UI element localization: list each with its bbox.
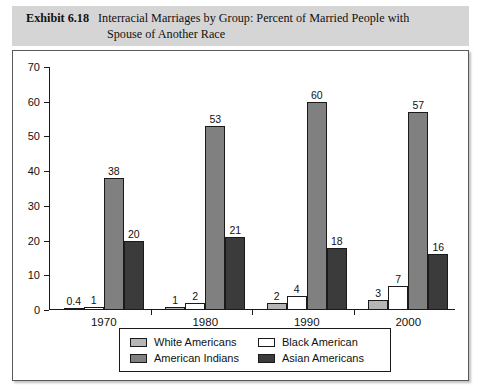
bar: 16: [428, 254, 448, 310]
x-tick-mark: [252, 310, 253, 315]
chart-legend: White AmericansBlack AmericanAmerican In…: [119, 328, 391, 372]
bar: 20: [124, 241, 144, 310]
legend-item: American Indians: [130, 352, 252, 364]
y-tick-label: 20: [28, 235, 40, 247]
bar-value-label: 18: [331, 235, 343, 247]
bar-value-label: 20: [128, 228, 140, 240]
bar: 1: [84, 307, 104, 310]
bar-value-label: 60: [311, 89, 323, 101]
bar: 4: [287, 296, 307, 310]
y-tick-mark: [44, 241, 49, 242]
bar-value-label: 1: [172, 294, 178, 306]
bar-group: 3757162000: [368, 67, 448, 310]
y-tick-label: 70: [28, 61, 40, 73]
exhibit-title-line-2: Spouse of Another Race: [26, 27, 469, 43]
bar: 7: [388, 286, 408, 310]
bar-value-label: 4: [294, 283, 300, 295]
bar-value-label: 0.4: [66, 295, 81, 307]
legend-label: Asian Americans: [282, 352, 364, 364]
legend-swatch: [258, 354, 275, 363]
bar: 2: [185, 303, 205, 310]
bar: 18: [327, 248, 347, 310]
bar-value-label: 53: [209, 113, 221, 125]
bar: 60: [307, 102, 327, 310]
x-tick-mark: [151, 310, 152, 315]
legend-item: White Americans: [130, 336, 252, 348]
y-tick-label: 30: [28, 200, 40, 212]
plot-area: 010203040506070 0.4138201970125321198024…: [49, 67, 455, 310]
y-tick-mark: [44, 310, 49, 311]
x-tick-label: 1970: [91, 316, 117, 328]
x-tick-label: 1980: [192, 316, 218, 328]
y-tick-mark: [44, 102, 49, 103]
bar-value-label: 2: [192, 290, 198, 302]
chart-frame: 010203040506070 0.4138201970125321198024…: [12, 50, 469, 381]
bar: 0.4: [64, 308, 84, 310]
y-tick-label: 40: [28, 165, 40, 177]
x-tick-mark: [354, 310, 355, 315]
y-tick-label: 10: [28, 269, 40, 281]
bar-value-label: 16: [432, 241, 444, 253]
bar-value-label: 38: [108, 165, 120, 177]
bar: 21: [225, 237, 245, 310]
bar-value-label: 7: [395, 273, 401, 285]
y-tick-label: 50: [28, 130, 40, 142]
y-tick-mark: [44, 206, 49, 207]
exhibit-title-text-1: Interracial Marriages by Group: Percent …: [98, 11, 409, 25]
y-tick-mark: [44, 67, 49, 68]
legend-label: White Americans: [154, 336, 237, 348]
exhibit-header: Exhibit 6.18Interracial Marriages by Gro…: [12, 6, 469, 46]
y-tick-mark: [44, 171, 49, 172]
bar-value-label: 3: [375, 287, 381, 299]
x-tick-label: 1990: [294, 316, 320, 328]
exhibit-figure: Exhibit 6.18Interracial Marriages by Gro…: [0, 0, 481, 388]
legend-swatch: [258, 338, 275, 347]
bar: 1: [165, 307, 185, 310]
exhibit-number-label: Exhibit 6.18: [26, 11, 98, 27]
exhibit-title-line-1: Exhibit 6.18Interracial Marriages by Gro…: [26, 11, 469, 27]
y-tick-label: 0: [34, 304, 40, 316]
y-tick-mark: [44, 136, 49, 137]
bar: 53: [205, 126, 225, 310]
bar-group: 1253211980: [165, 67, 245, 310]
legend-swatch: [130, 354, 147, 363]
bar: 38: [104, 178, 124, 310]
bar: 57: [408, 112, 428, 310]
bar-value-label: 57: [412, 99, 424, 111]
bar: 2: [267, 303, 287, 310]
legend-label: Black American: [282, 336, 358, 348]
legend-swatch: [130, 338, 147, 347]
legend-item: Asian Americans: [258, 352, 380, 364]
bar: 3: [368, 300, 388, 310]
y-axis-line: [49, 67, 50, 310]
bar-group: 0.4138201970: [64, 67, 144, 310]
y-tick-mark: [44, 275, 49, 276]
bar-group: 2460181990: [267, 67, 347, 310]
y-tick-label: 60: [28, 96, 40, 108]
bar-value-label: 1: [91, 294, 97, 306]
legend-item: Black American: [258, 336, 380, 348]
legend-label: American Indians: [154, 352, 239, 364]
bar-value-label: 21: [229, 224, 241, 236]
bar-value-label: 2: [274, 290, 280, 302]
x-tick-label: 2000: [395, 316, 421, 328]
